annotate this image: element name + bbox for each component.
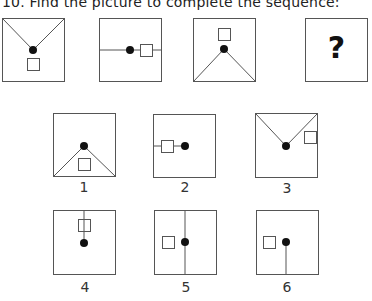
option-4-label: 4 bbox=[70, 279, 100, 295]
option-3-figure[interactable] bbox=[255, 113, 318, 178]
option-3-label: 3 bbox=[272, 180, 302, 196]
sequence-figure-2 bbox=[99, 18, 162, 82]
option-5-label: 5 bbox=[171, 279, 201, 295]
option-2-figure[interactable] bbox=[153, 114, 216, 178]
option-6-figure[interactable] bbox=[256, 210, 319, 275]
option-6-label: 6 bbox=[272, 279, 302, 295]
question-mark: ? bbox=[305, 30, 368, 65]
option-1-label: 1 bbox=[69, 179, 99, 195]
sequence-figure-3 bbox=[193, 18, 256, 82]
question-title: 10. Find the picture to complete the seq… bbox=[2, 0, 340, 10]
sequence-figure-1 bbox=[2, 18, 65, 82]
option-5-figure[interactable] bbox=[154, 210, 217, 275]
option-2-label: 2 bbox=[170, 179, 200, 195]
option-1-figure[interactable] bbox=[53, 113, 116, 177]
option-4-figure[interactable] bbox=[53, 210, 116, 275]
